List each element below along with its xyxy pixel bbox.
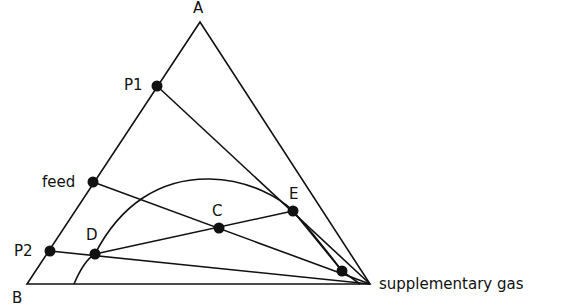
label-e: E <box>289 185 298 203</box>
line-d-e <box>95 211 293 254</box>
point-r <box>337 266 348 277</box>
point-p2 <box>45 246 56 257</box>
point-p1 <box>152 81 163 92</box>
point-c <box>214 223 225 234</box>
label-supplementary-gas: supplementary gas <box>379 275 524 293</box>
label-p1: P1 <box>124 76 143 94</box>
label-d: D <box>86 226 98 244</box>
label-feed: feed <box>42 173 75 191</box>
label-c: C <box>212 202 222 220</box>
line-feed-gas <box>93 182 370 284</box>
label-a: A <box>193 0 204 17</box>
ternary-triangle <box>27 22 370 284</box>
line-e-r <box>293 211 342 271</box>
label-p2: P2 <box>14 242 33 260</box>
ternary-diagram: A B supplementary gas P1 feed P2 D C E <box>0 0 575 308</box>
label-b: B <box>12 289 22 307</box>
point-feed <box>88 177 99 188</box>
point-d <box>90 249 101 260</box>
line-p1-gas <box>157 86 370 284</box>
point-e <box>288 206 299 217</box>
